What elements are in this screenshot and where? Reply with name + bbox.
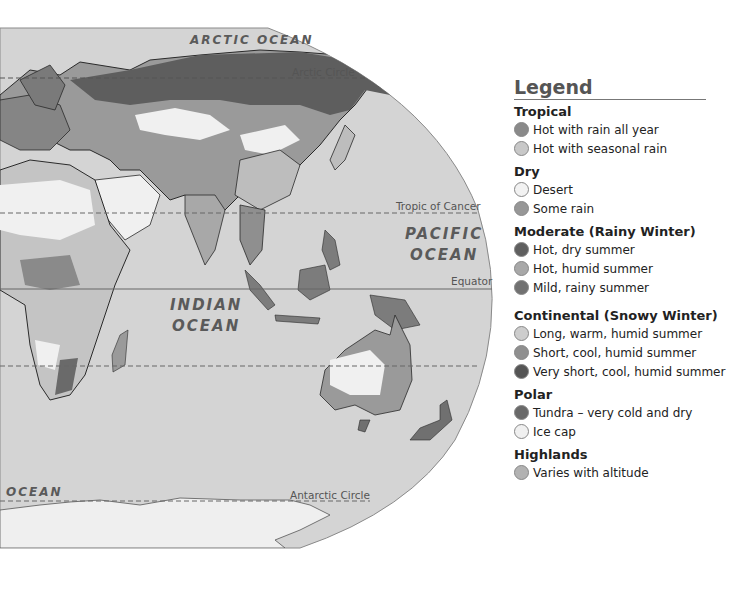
sahara (0, 180, 95, 240)
legend-item: Desert (514, 180, 736, 199)
legend-item-label: Long, warm, humid summer (533, 327, 702, 341)
color-swatch-icon (514, 465, 529, 480)
legend-item-label: Hot, dry summer (533, 243, 635, 257)
legend-item: Short, cool, humid summer (514, 343, 736, 362)
color-swatch-icon (514, 141, 529, 156)
legend-group-title: Tropical (514, 104, 736, 119)
climate-map: ARCTIC OCEAN Arctic Circle Tropic of Can… (0, 0, 500, 560)
equator-label: Equator (451, 275, 492, 287)
indian-line-2: OCEAN (170, 316, 242, 337)
legend-item-label: Hot with rain all year (533, 123, 659, 137)
legend-item: Ice cap (514, 422, 736, 441)
color-swatch-icon (514, 364, 529, 379)
pacific-ocean-label: PACIFIC OCEAN (405, 224, 483, 266)
legend-group-continental-snowy-winter: Continental (Snowy Winter)Long, warm, hu… (514, 308, 736, 381)
legend-item: Very short, cool, humid summer (514, 362, 736, 381)
legend-item-label: Hot, humid summer (533, 262, 653, 276)
legend-item-label: Some rain (533, 202, 594, 216)
legend-item: Some rain (514, 199, 736, 218)
legend-item-label: Varies with altitude (533, 466, 649, 480)
color-swatch-icon (514, 201, 529, 216)
color-swatch-icon (514, 345, 529, 360)
legend-item: Hot, humid summer (514, 259, 736, 278)
legend-groups: TropicalHot with rain all yearHot with s… (514, 104, 736, 482)
legend-group-polar: PolarTundra – very cold and dryIce cap (514, 387, 736, 441)
legend-group-title: Continental (Snowy Winter) (514, 308, 736, 323)
legend-item: Hot with rain all year (514, 120, 736, 139)
central-africa (20, 255, 80, 290)
color-swatch-icon (514, 182, 529, 197)
legend-group-dry: DryDesertSome rain (514, 164, 736, 218)
legend-item: Tundra – very cold and dry (514, 403, 736, 422)
color-swatch-icon (514, 326, 529, 341)
legend-item: Hot with seasonal rain (514, 139, 736, 158)
arctic-ocean-label: ARCTIC OCEAN (190, 33, 314, 47)
legend-item: Mild, rainy summer (514, 278, 736, 297)
atlantic-ocean-partial-label: OCEAN (6, 485, 63, 499)
legend-item-label: Ice cap (533, 425, 576, 439)
legend-group-highlands: HighlandsVaries with altitude (514, 447, 736, 482)
legend-item-label: Very short, cool, humid summer (533, 365, 725, 379)
legend-group-title: Highlands (514, 447, 736, 462)
map-graphic (0, 0, 500, 560)
legend-item: Hot, dry summer (514, 240, 736, 259)
legend-group-moderate-rainy-winter: Moderate (Rainy Winter)Hot, dry summerHo… (514, 224, 736, 297)
legend-item-label: Mild, rainy summer (533, 281, 649, 295)
antarctic-circle-label: Antarctic Circle (290, 489, 370, 501)
legend-group-title: Polar (514, 387, 736, 402)
indian-line-1: INDIAN (170, 295, 242, 316)
legend: Legend TropicalHot with rain all yearHot… (514, 76, 736, 482)
legend-title: Legend (514, 76, 706, 100)
legend-item-label: Desert (533, 183, 573, 197)
color-swatch-icon (514, 261, 529, 276)
pacific-line-1: PACIFIC (405, 224, 483, 245)
legend-item: Varies with altitude (514, 463, 736, 482)
color-swatch-icon (514, 122, 529, 137)
legend-group-tropical: TropicalHot with rain all yearHot with s… (514, 104, 736, 158)
tropic-of-cancer-label: Tropic of Cancer (396, 200, 481, 212)
legend-item: Long, warm, humid summer (514, 324, 736, 343)
color-swatch-icon (514, 242, 529, 257)
arctic-circle-label: Arctic Circle (292, 66, 355, 78)
legend-item-label: Short, cool, humid summer (533, 346, 696, 360)
legend-item-label: Tundra – very cold and dry (533, 406, 692, 420)
indian-ocean-label: INDIAN OCEAN (170, 295, 242, 337)
color-swatch-icon (514, 424, 529, 439)
legend-group-title: Dry (514, 164, 736, 179)
pacific-line-2: OCEAN (405, 245, 483, 266)
color-swatch-icon (514, 405, 529, 420)
legend-group-title: Moderate (Rainy Winter) (514, 224, 736, 239)
legend-item-label: Hot with seasonal rain (533, 142, 667, 156)
color-swatch-icon (514, 280, 529, 295)
